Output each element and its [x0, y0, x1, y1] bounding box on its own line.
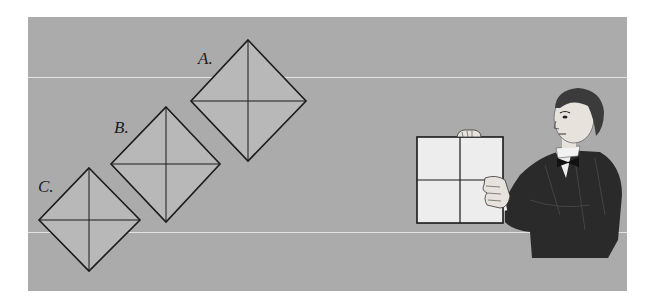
top-hand: [457, 130, 481, 137]
label-b: B.: [114, 119, 129, 136]
diagram-canvas: [0, 0, 651, 301]
man-figure: [498, 88, 622, 258]
eye: [563, 116, 568, 119]
label-c: C.: [38, 178, 54, 195]
diamond-c: [39, 168, 140, 271]
label-a: A.: [198, 50, 213, 67]
right-hand: [483, 176, 510, 208]
